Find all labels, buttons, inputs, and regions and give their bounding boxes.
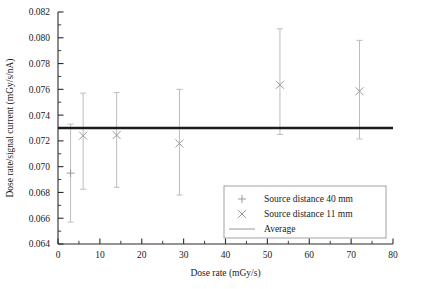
data-point-group (79, 93, 87, 189)
data-point-group (67, 124, 75, 222)
legend-label-0: Source distance 40 mm (264, 194, 354, 204)
y-axis-title: Dose rate/signal current (mGy/s/nA) (5, 58, 16, 197)
y-tick-label: 0.076 (29, 85, 51, 95)
x-tick-label: 20 (137, 250, 147, 260)
data-point-group (113, 93, 121, 188)
y-tick-label: 0.066 (29, 214, 51, 224)
y-tick-label: 0.064 (29, 239, 51, 249)
legend-label-2: Average (264, 224, 295, 234)
data-point-group (356, 40, 364, 139)
y-tick-label: 0.080 (29, 33, 51, 43)
x-tick-label: 60 (305, 250, 315, 260)
y-tick-label: 0.078 (29, 59, 51, 69)
x-tick-label: 10 (95, 250, 105, 260)
x-axis-title: Dose rate (mGy/s) (190, 268, 260, 279)
x-tick-label: 50 (263, 250, 273, 260)
data-point-group (175, 89, 183, 195)
x-tick-label: 40 (221, 250, 231, 260)
y-tick-label: 0.072 (29, 136, 51, 146)
y-tick-label: 0.070 (29, 162, 51, 172)
x-tick-label: 70 (346, 250, 356, 260)
y-tick-label: 0.082 (29, 7, 51, 17)
scatter-plot-canvas: 01020304050607080Dose rate (mGy/s)0.0640… (0, 0, 425, 289)
x-tick-label: 30 (179, 250, 189, 260)
legend-label-1: Source distance 11 mm (264, 209, 353, 219)
marker-plus-icon (67, 169, 75, 177)
chart-figure: 01020304050607080Dose rate (mGy/s)0.0640… (0, 0, 425, 289)
x-tick-label: 80 (388, 250, 398, 260)
y-tick-label: 0.068 (29, 188, 51, 198)
data-point-group (276, 29, 284, 135)
y-tick-label: 0.074 (29, 111, 51, 121)
x-tick-label: 0 (56, 250, 61, 260)
